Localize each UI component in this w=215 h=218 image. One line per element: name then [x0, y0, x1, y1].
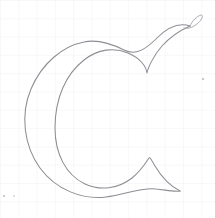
paper-speck	[3, 195, 5, 197]
sketch-canvas	[0, 0, 215, 218]
top-ball-terminal-path	[184, 15, 202, 28]
inner-bowl-curve-path	[55, 26, 190, 191]
paper-speck	[202, 78, 204, 80]
paper-speck	[13, 195, 15, 197]
outer-bowl-curve-path	[25, 25, 190, 198]
paper-specks	[3, 78, 204, 197]
letterform-drawing	[0, 0, 215, 218]
